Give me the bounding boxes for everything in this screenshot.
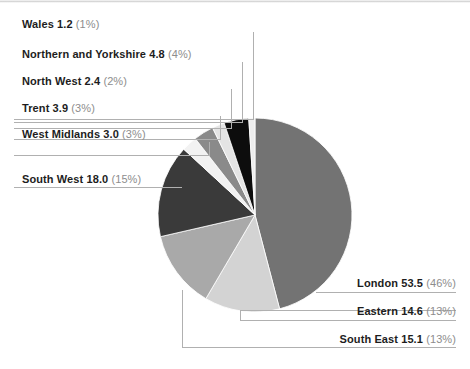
- label-south-west: South West 18.0 (15%): [22, 173, 141, 186]
- label-west-midlands-name: West Midlands 3.0: [22, 128, 119, 140]
- label-northern-yorkshire: Northern and Yorkshire 4.8 (4%): [22, 48, 192, 61]
- label-northern-yorkshire-name: Northern and Yorkshire 4.8: [22, 48, 165, 60]
- label-eastern-percent: (13%): [426, 305, 456, 317]
- label-south-east: South East 15.1 (13%): [256, 333, 456, 346]
- label-london-percent: (46%): [426, 277, 456, 289]
- label-north-west: North West 2.4 (2%): [22, 75, 127, 88]
- label-west-midlands: West Midlands 3.0 (3%): [22, 128, 146, 141]
- label-wales-name: Wales 1.2: [22, 18, 73, 30]
- label-trent-name: Trent 3.9: [22, 102, 68, 114]
- label-south-east-name: South East 15.1: [340, 333, 423, 345]
- label-trent-percent: (3%): [71, 102, 95, 114]
- label-northern-yorkshire-percent: (4%): [168, 48, 192, 60]
- label-wales: Wales 1.2 (1%): [22, 18, 99, 31]
- label-eastern-name: Eastern 14.6: [357, 305, 423, 317]
- label-south-east-percent: (13%): [426, 333, 456, 345]
- label-trent: Trent 3.9 (3%): [22, 102, 95, 115]
- label-london: London 53.5 (46%): [256, 277, 456, 290]
- label-north-west-percent: (2%): [103, 75, 127, 87]
- label-eastern: Eastern 14.6 (13%): [256, 305, 456, 318]
- label-wales-percent: (1%): [76, 18, 100, 30]
- leader-line-south-west: [14, 187, 182, 188]
- pie-chart-figure: Wales 1.2 (1%) Northern and Yorkshire 4.…: [0, 0, 470, 369]
- leader-line-west-midlands: [14, 142, 210, 156]
- label-london-name: London 53.5: [357, 277, 423, 289]
- label-north-west-name: North West 2.4: [22, 75, 100, 87]
- label-south-west-name: South West 18.0: [22, 173, 108, 185]
- label-south-west-percent: (15%): [111, 173, 141, 185]
- label-west-midlands-percent: (3%): [122, 128, 146, 140]
